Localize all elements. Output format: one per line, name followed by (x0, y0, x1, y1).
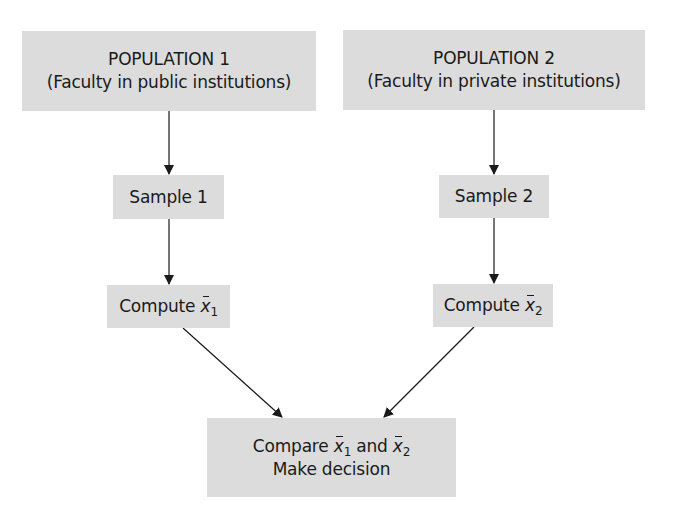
population2-title: POPULATION 2 (433, 47, 555, 70)
xbar1-symbol: x (201, 295, 211, 318)
xbar2-symbol: x (525, 294, 535, 317)
compute2-label: Compute x2 (444, 294, 543, 317)
population1-title: POPULATION 1 (108, 48, 230, 71)
compare-middle: and (351, 436, 393, 456)
compare-line1: Compare x1 and x2 (253, 435, 410, 458)
arrow-compute2-to-compare (384, 327, 474, 417)
population1-box: POPULATION 1 (Faculty in public institut… (22, 31, 316, 111)
compare-line2: Make decision (273, 458, 391, 481)
compute1-label: Compute x1 (119, 295, 218, 318)
compute1-prefix: Compute (119, 296, 200, 316)
compute2-box: Compute x2 (433, 284, 553, 327)
population2-box: POPULATION 2 (Faculty in private institu… (343, 30, 645, 110)
sample1-box: Sample 1 (113, 175, 224, 219)
sample1-label: Sample 1 (129, 186, 207, 209)
xbar2-subscript: 2 (535, 304, 542, 318)
population1-subtitle: (Faculty in public institutions) (47, 71, 292, 94)
arrow-compute1-to-compare (183, 328, 282, 417)
compute2-prefix: Compute (444, 295, 525, 315)
sample2-box: Sample 2 (439, 175, 549, 218)
compare-xbar2-symbol: x (393, 435, 403, 458)
compare-xbar2-subscript: 2 (403, 445, 410, 459)
compute1-box: Compute x1 (107, 285, 230, 328)
compare-prefix: Compare (253, 436, 334, 456)
sample2-label: Sample 2 (455, 185, 533, 208)
population2-subtitle: (Faculty in private institutions) (367, 70, 620, 93)
compare-xbar1-subscript: 1 (344, 445, 351, 459)
xbar1-subscript: 1 (210, 305, 217, 319)
compare-box: Compare x1 and x2 Make decision (207, 418, 456, 497)
compare-xbar1-symbol: x (334, 435, 344, 458)
